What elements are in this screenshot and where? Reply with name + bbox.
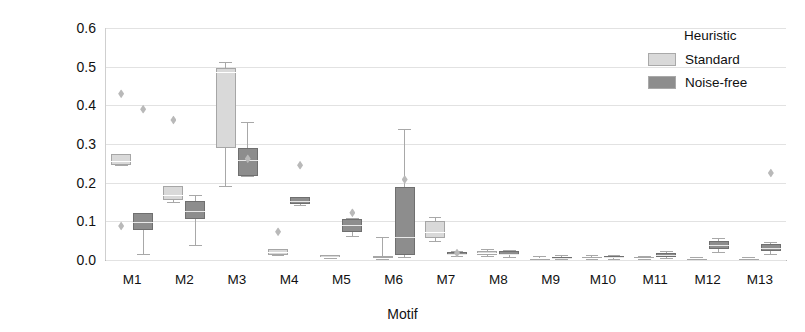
x-tick-label-m4: M4 [280, 272, 299, 287]
outlier-marker [297, 161, 303, 170]
whisker-cap [712, 238, 725, 239]
median-line [373, 258, 393, 259]
legend-item-standard[interactable]: Standard [648, 49, 798, 70]
box-standard-m1 [111, 154, 131, 166]
whisker-cap [241, 176, 254, 177]
y-axis-title: Occurrence [2, 0, 28, 52]
x-axis-title: Motif [0, 306, 805, 322]
median-line [111, 161, 131, 162]
whisker-cap [219, 186, 232, 187]
whisker-cap [398, 257, 411, 258]
median-line [634, 258, 654, 259]
whisker-cap [660, 258, 673, 259]
median-line [133, 222, 153, 223]
whisker-cap [324, 258, 337, 259]
x-tick-label-m12: M12 [694, 272, 720, 287]
whisker-cap [481, 256, 494, 257]
whisker-cap [376, 237, 389, 238]
legend-swatch-icon [648, 53, 676, 66]
y-tick-label: 0.3 [52, 136, 96, 152]
outlier-marker [118, 89, 124, 98]
x-tick-label-m13: M13 [747, 272, 773, 287]
whisker-cap [241, 122, 254, 123]
whisker-cap [376, 259, 389, 260]
whisker-cap [137, 254, 150, 255]
outlier-marker [275, 227, 281, 236]
legend-item-noise-free[interactable]: Noise-free [648, 72, 798, 93]
median-line [290, 201, 310, 202]
y-tick-label: 0.5 [52, 59, 96, 75]
median-line [185, 211, 205, 212]
median-line [499, 254, 519, 255]
median-line [342, 225, 362, 226]
whisker-cap [398, 129, 411, 130]
x-tick-label-m10: M10 [590, 272, 616, 287]
gridline [106, 260, 786, 261]
whisker-cap [219, 62, 232, 63]
box-standard-m7 [425, 221, 445, 237]
outlier-marker [349, 208, 355, 217]
x-tick-label-m5: M5 [332, 272, 351, 287]
median-line [709, 245, 729, 246]
median-line [761, 248, 781, 249]
legend-title: Heuristic [684, 28, 798, 43]
median-line [604, 257, 624, 258]
outlier-marker [118, 221, 124, 230]
median-line [216, 72, 236, 73]
whisker-cap [346, 236, 359, 237]
median-line [582, 258, 602, 259]
median-line [163, 195, 183, 196]
outlier-marker [170, 116, 176, 125]
whisker-cap [167, 202, 180, 203]
whisker-cap [608, 259, 621, 260]
median-line [530, 258, 550, 259]
x-tick-label-m2: M2 [175, 272, 194, 287]
legend-swatch-icon [648, 76, 676, 89]
whisker-cap [503, 257, 516, 258]
median-line [739, 258, 759, 259]
gridline [106, 144, 786, 145]
whisker-cap [429, 241, 442, 242]
legend-label: Standard [685, 52, 740, 67]
median-line [552, 258, 572, 259]
y-tick-label: 0.2 [52, 175, 96, 191]
median-line [425, 232, 445, 233]
y-tick-label: 0.6 [52, 20, 96, 36]
y-axis-tick-labels: 0.00.10.20.30.40.50.6 [46, 28, 96, 260]
box-noise-free-m6 [395, 187, 415, 256]
median-line [687, 258, 707, 259]
legend-entries: StandardNoise-free [648, 49, 798, 93]
median-line [320, 257, 340, 258]
box-standard-m3 [216, 68, 236, 148]
whisker-cap [638, 259, 651, 260]
whisker-cap [555, 259, 568, 260]
whisker-cap [294, 205, 307, 206]
whisker-cap [712, 252, 725, 253]
whisker-cap [429, 217, 442, 218]
outlier-marker [768, 169, 774, 178]
gridline [106, 221, 786, 222]
y-tick-label: 0.1 [52, 213, 96, 229]
median-line [395, 237, 415, 238]
x-tick-label-m3: M3 [227, 272, 246, 287]
legend: Heuristic StandardNoise-free [648, 28, 798, 95]
box-standard-m2 [163, 186, 183, 200]
whisker-cap [189, 195, 202, 196]
whisker-cap [764, 254, 777, 255]
median-line [477, 253, 497, 254]
whisker-cap [272, 255, 285, 256]
x-tick-label-m8: M8 [489, 272, 508, 287]
median-line [268, 252, 288, 253]
box-plot-chart: Occurrence 0.00.10.20.30.40.50.6 M1M2M3M… [0, 0, 805, 332]
x-tick-label-m11: M11 [643, 272, 668, 287]
gridline [106, 183, 786, 184]
legend-label: Noise-free [685, 75, 747, 90]
whisker-cap [586, 259, 599, 260]
x-tick-label-m6: M6 [384, 272, 403, 287]
y-tick-label: 0.4 [52, 97, 96, 113]
gridline [106, 105, 786, 106]
whisker-cap [189, 245, 202, 246]
whisker-cap [115, 165, 128, 166]
median-line [656, 255, 676, 256]
x-tick-label-m7: M7 [437, 272, 456, 287]
